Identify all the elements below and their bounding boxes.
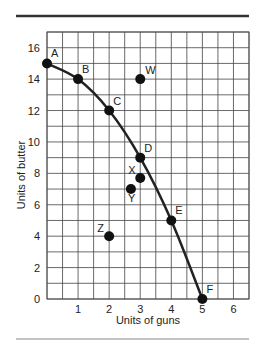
point-label: C — [113, 95, 121, 107]
y-tick-label: 10 — [28, 136, 40, 148]
point-b — [73, 74, 83, 84]
y-tick-label: 14 — [28, 73, 40, 85]
point-x — [135, 173, 145, 183]
point-label: W — [145, 64, 156, 76]
y-tick-label: 16 — [28, 42, 40, 54]
y-tick-label: 8 — [34, 167, 40, 179]
x-axis-label: Units of guns — [116, 314, 181, 326]
point-label: E — [175, 204, 182, 216]
point-d — [135, 153, 145, 163]
ppf-chart: 0246810121416 123456 ABCDEFWXYZ Units of… — [0, 0, 263, 349]
point-label: X — [128, 164, 136, 176]
y-tick-label: 2 — [34, 262, 40, 274]
y-tick-labels: 0246810121416 — [28, 42, 40, 305]
point-label: Y — [128, 192, 136, 204]
point-label: F — [206, 283, 213, 295]
point-label: Z — [97, 222, 104, 234]
y-tick-label: 6 — [34, 199, 40, 211]
point-label: A — [51, 47, 59, 59]
x-tick-label: 5 — [199, 303, 205, 315]
y-tick-label: 0 — [34, 293, 40, 305]
point-label: D — [144, 142, 152, 154]
point-e — [166, 215, 176, 225]
y-axis-label: Units of butter — [15, 140, 27, 209]
point-c — [104, 106, 114, 116]
y-tick-label: 4 — [34, 230, 40, 242]
point-label: B — [82, 63, 89, 75]
data-points: ABCDEFWXYZ — [42, 47, 213, 304]
y-tick-label: 12 — [28, 105, 40, 117]
x-tick-label: 2 — [106, 303, 112, 315]
point-w — [135, 74, 145, 84]
point-z — [104, 231, 114, 241]
point-a — [42, 58, 52, 68]
x-tick-label: 1 — [75, 303, 81, 315]
point-f — [197, 294, 207, 304]
x-tick-label: 6 — [230, 303, 236, 315]
